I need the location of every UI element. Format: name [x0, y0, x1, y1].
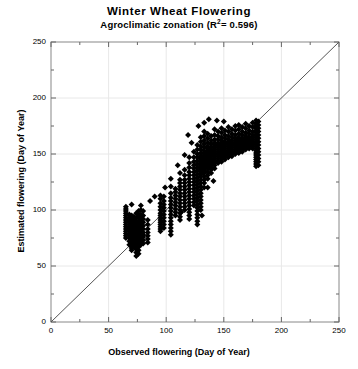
y-tick-value: 250	[33, 38, 46, 46]
data-point	[147, 198, 153, 204]
y-tick-value: 100	[33, 206, 46, 214]
x-tick-label: 250	[319, 326, 358, 336]
scatter-series	[123, 116, 261, 259]
data-point	[201, 120, 207, 126]
chart-figure: Winter Wheat Flowering Agroclimatic zona…	[0, 0, 358, 369]
x-tick-label: 150	[204, 326, 244, 336]
data-point	[205, 185, 211, 191]
data-point	[194, 222, 200, 228]
x-tick-label: 200	[261, 326, 301, 336]
y-tick-label: 150	[24, 150, 46, 158]
x-tick-label: 100	[146, 326, 186, 336]
data-point	[185, 132, 191, 138]
data-point	[186, 216, 192, 222]
data-point	[177, 217, 183, 223]
x-tick-value: 150	[204, 326, 244, 336]
y-tick-value: 200	[33, 94, 46, 102]
subtitle-prefix: Agroclimatic zonation (R	[100, 19, 217, 30]
chart-title: Winter Wheat Flowering	[0, 4, 358, 18]
x-tick-value: 0	[31, 326, 71, 336]
data-point	[189, 140, 195, 146]
x-tick-value: 50	[89, 326, 129, 336]
y-tick-value: 150	[33, 150, 46, 158]
data-point	[168, 232, 174, 238]
y-tick-value: 50	[37, 262, 46, 270]
x-axis-label: Observed flowering (Day of Year)	[0, 347, 358, 357]
y-axis-label: Estimated flowering (Day of Year)	[16, 81, 26, 281]
x-tick-label: 50	[89, 326, 129, 336]
y-tick-value: 0	[42, 318, 46, 326]
data-point	[175, 162, 181, 168]
y-tick-label: 250	[24, 38, 46, 46]
data-point	[210, 178, 216, 184]
x-tick-value: 100	[146, 326, 186, 336]
y-tick-label: 0	[24, 318, 46, 326]
data-point	[162, 185, 168, 191]
x-tick-label: 0	[31, 326, 71, 336]
subtitle-suffix: = 0.596)	[221, 19, 258, 30]
chart-title-block: Winter Wheat Flowering Agroclimatic zona…	[0, 4, 358, 31]
x-tick-value: 200	[261, 326, 301, 336]
plot-canvas	[0, 0, 358, 369]
data-point	[195, 123, 201, 129]
y-tick-label: 100	[24, 206, 46, 214]
data-point	[206, 116, 212, 122]
chart-subtitle: Agroclimatic zonation (R2= 0.596)	[0, 18, 358, 31]
x-tick-value: 250	[319, 326, 358, 336]
data-point	[168, 176, 174, 182]
y-tick-label: 50	[24, 262, 46, 270]
data-point	[221, 119, 227, 125]
y-tick-label: 200	[24, 94, 46, 102]
data-point	[129, 201, 135, 207]
data-point	[214, 117, 220, 123]
data-point	[152, 194, 158, 200]
